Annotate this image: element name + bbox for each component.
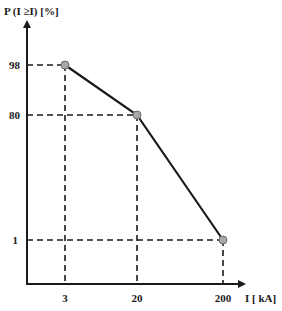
y-tick-label: 1: [0, 235, 18, 246]
guide-lines: [27, 65, 223, 284]
chart: P (I ≥I) [%] I [ kA] 98 80 1 3 20 200: [0, 0, 282, 311]
x-axis-title: I [ kA]: [245, 293, 276, 304]
data-line: [65, 65, 223, 240]
data-point: [133, 111, 141, 119]
x-tick-label: 3: [50, 293, 80, 304]
y-tick-label: 98: [0, 60, 20, 71]
y-axis-title: P (I ≥I) [%]: [4, 6, 59, 17]
data-point: [61, 61, 69, 69]
data-point: [219, 236, 227, 244]
x-tick-label: 200: [208, 293, 238, 304]
y-tick-label: 80: [0, 110, 20, 121]
chart-plot: [0, 0, 282, 311]
x-tick-label: 20: [122, 293, 152, 304]
